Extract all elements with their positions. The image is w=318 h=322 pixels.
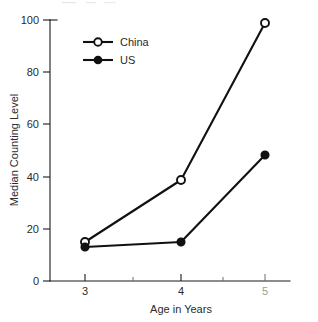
data-point-us-3 [81, 243, 88, 250]
x-tick-labels: 3 4 5 [82, 285, 268, 297]
legend-marker-open-circle-icon [94, 38, 102, 46]
y-tick-label-60: 60 [27, 118, 39, 130]
y-tick-labels: 100 80 60 40 20 0 [21, 14, 39, 287]
x-tick-label-5: 5 [262, 285, 268, 297]
scan-artifact-top [62, 2, 116, 3]
x-axis [50, 274, 290, 281]
data-point-china-4 [177, 176, 185, 184]
legend-label-us: US [120, 54, 135, 66]
data-point-us-4 [177, 238, 184, 245]
line-chart: 100 80 60 40 20 0 Median Counting Level … [0, 0, 318, 322]
x-tick-label-4: 4 [178, 285, 184, 297]
y-axis [43, 20, 57, 281]
y-tick-label-40: 40 [27, 171, 39, 183]
chart-figure: 100 80 60 40 20 0 Median Counting Level … [0, 0, 318, 322]
x-tick-label-3: 3 [82, 285, 88, 297]
legend-entry-us: US [83, 54, 135, 66]
data-point-us-5 [261, 151, 268, 158]
y-axis-title: Median Counting Level [8, 94, 20, 207]
legend-marker-filled-circle-icon [95, 57, 102, 64]
y-tick-label-80: 80 [27, 66, 39, 78]
legend-label-china: China [120, 36, 150, 48]
x-axis-title: Age in Years [150, 303, 212, 315]
y-tick-label-20: 20 [27, 223, 39, 235]
series-us [81, 151, 268, 250]
y-tick-label-100: 100 [21, 14, 39, 26]
legend-entry-china: China [83, 36, 150, 48]
data-point-china-5 [261, 19, 269, 27]
chart-legend: China US [83, 36, 150, 66]
series-china [81, 19, 269, 246]
y-tick-label-0: 0 [33, 275, 39, 287]
